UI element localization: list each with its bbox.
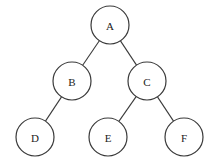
tree-node-e: E	[89, 118, 127, 156]
tree-node-b: B	[53, 62, 91, 100]
binary-tree-diagram: ABCDEF	[0, 0, 216, 166]
node-label: A	[106, 20, 114, 32]
node-label: D	[31, 132, 39, 144]
edge-c-f	[157, 97, 173, 121]
edge-c-e	[119, 97, 136, 122]
edge-a-b	[83, 41, 100, 66]
node-label: E	[105, 132, 112, 144]
edge-b-d	[45, 97, 61, 121]
node-label: C	[143, 76, 150, 88]
nodes-group: ABCDEF	[16, 6, 203, 156]
tree-node-d: D	[16, 118, 54, 156]
node-label: B	[68, 76, 75, 88]
tree-node-a: A	[91, 6, 129, 44]
node-label: F	[181, 132, 187, 144]
tree-node-c: C	[128, 62, 166, 100]
edge-a-c	[120, 41, 136, 65]
tree-node-f: F	[165, 118, 203, 156]
